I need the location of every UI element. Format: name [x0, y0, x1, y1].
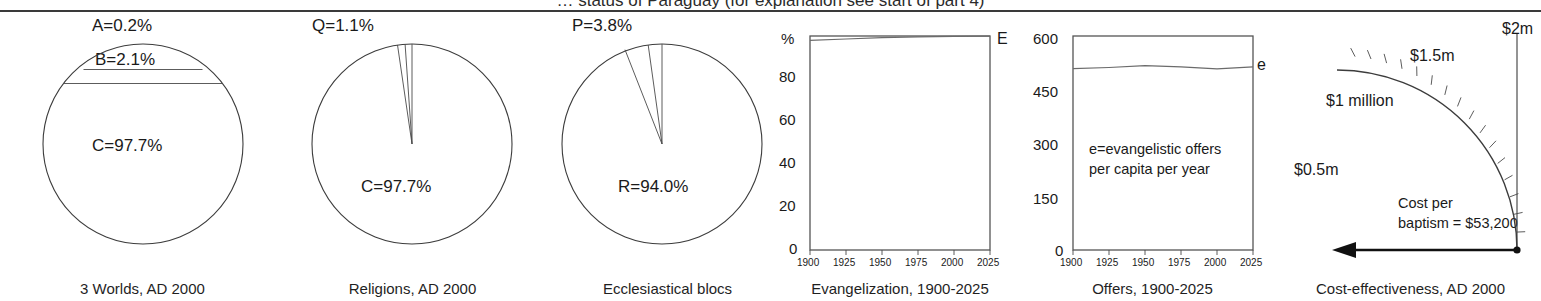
offers-chart-svg — [1025, 14, 1280, 264]
caption-religions: Religions, AD 2000 — [285, 280, 540, 297]
evangelization-chart-svg — [775, 14, 1025, 264]
cost-effectiveness-gauge-svg — [1280, 14, 1541, 274]
x-tick-1975: 1975 — [905, 257, 927, 268]
x-tick-1950: 1950 — [869, 257, 891, 268]
x-tick-2000-offers: 2000 — [1204, 257, 1226, 268]
x-tick-1900: 1900 — [797, 257, 819, 268]
x-tick-1975-offers: 1975 — [1168, 257, 1190, 268]
panel-three-worlds: A=0.2% B=2.1% C=97.7% 3 Worlds, AD 2000 — [0, 14, 285, 301]
caption-three-worlds: 3 Worlds, AD 2000 — [0, 280, 285, 297]
x-tick-1925: 1925 — [833, 257, 855, 268]
caption-ecclesiastical-blocs: Ecclesiastical blocs — [540, 280, 795, 297]
panel-cost-effectiveness: $2m $1.5m $1 million $0.5m Cost per bapt… — [1280, 14, 1541, 301]
panel-ecclesiastical-blocs: P=3.8% R=94.0% Ecclesiastical blocs — [540, 14, 795, 301]
x-tick-1900-offers: 1900 — [1060, 257, 1082, 268]
header-divider — [0, 10, 1541, 12]
clipped-header-title: … status of Paraguay (for explanation se… — [0, 0, 1541, 10]
religions-pie-svg — [285, 14, 540, 274]
figure-strip: … status of Paraguay (for explanation se… — [0, 0, 1541, 301]
three-worlds-pie-svg — [0, 14, 285, 274]
panel-evangelization: % 80 60 40 20 0 E 1900 1925 1950 1975 20… — [775, 14, 1025, 301]
x-tick-1925-offers: 1925 — [1096, 257, 1118, 268]
x-tick-2025: 2025 — [977, 257, 999, 268]
ecclesiastical-pie-svg — [540, 14, 795, 274]
x-tick-2025-offers: 2025 — [1240, 257, 1262, 268]
caption-offers: Offers, 1900-2025 — [1025, 280, 1280, 297]
panel-offers: 600 450 300 150 0 e e=evangelistic offer… — [1025, 14, 1280, 301]
panel-religions: Q=1.1% C=97.7% Religions, AD 2000 — [285, 14, 540, 301]
x-tick-1950-offers: 1950 — [1132, 257, 1154, 268]
caption-cost-effectiveness: Cost-effectiveness, AD 2000 — [1280, 280, 1541, 297]
x-tick-2000: 2000 — [941, 257, 963, 268]
caption-evangelization: Evangelization, 1900-2025 — [775, 280, 1025, 297]
